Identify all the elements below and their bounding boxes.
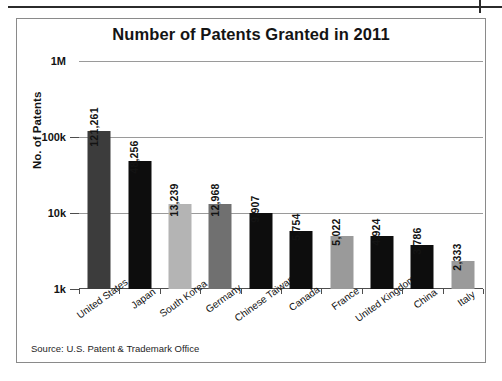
page-edge-tick — [479, 0, 481, 13]
bar[interactable]: 5,754 — [290, 231, 313, 289]
y-axis-tick — [70, 137, 79, 138]
y-axis-tick-label: 100k — [42, 131, 66, 143]
bar[interactable]: 2,333 — [451, 261, 474, 289]
bar[interactable]: 13,239 — [168, 204, 191, 289]
y-axis-tick-label: 1k — [54, 283, 66, 295]
bar-value-label: 9,907 — [249, 196, 261, 223]
plot-area: 1M100k10k1k 121,261United States48,256Ja… — [79, 61, 483, 289]
bar-group[interactable]: 48,256Japan — [119, 61, 159, 289]
x-axis-tick — [281, 289, 282, 294]
x-axis-tick — [362, 289, 363, 294]
bar-value-label: 48,256 — [128, 140, 140, 173]
x-axis-tick — [483, 289, 484, 294]
bar[interactable]: 4,924 — [370, 236, 393, 289]
bar-series: 121,261United States48,256Japan13,239Sou… — [79, 61, 483, 289]
bar-group[interactable]: 12,968Germany — [200, 61, 240, 289]
x-axis-tick — [321, 289, 322, 294]
y-axis-tick-label: 10k — [48, 207, 66, 219]
bar-group[interactable]: 3,786China — [402, 61, 442, 289]
bar[interactable]: 48,256 — [128, 161, 151, 289]
bar-value-label: 5,022 — [330, 218, 342, 245]
bar-value-label: 4,924 — [370, 219, 382, 246]
bar-group[interactable]: 9,907Chinese Taiwan — [241, 61, 281, 289]
bar-value-label: 3,786 — [410, 227, 422, 254]
y-axis-tick — [70, 213, 79, 214]
bar-group[interactable]: 2,333Italy — [443, 61, 483, 289]
bar-group[interactable]: 13,239South Korea — [160, 61, 200, 289]
x-axis-tick — [200, 289, 201, 294]
chart-title: Number of Patents Granted in 2011 — [17, 25, 485, 44]
bar-value-label: 12,968 — [208, 184, 220, 217]
page-edge-rule — [8, 6, 502, 8]
bar-value-label: 121,261 — [87, 107, 99, 146]
bar[interactable]: 12,968 — [209, 204, 232, 289]
y-axis-tick — [70, 289, 79, 290]
bar[interactable]: 121,261 — [88, 131, 111, 289]
x-axis-category-label: Japan — [129, 286, 158, 311]
x-axis-tick — [402, 289, 403, 294]
bar-group[interactable]: 5,754Canada — [281, 61, 321, 289]
x-axis-tick — [241, 289, 242, 294]
x-axis-tick — [79, 289, 80, 294]
bar-value-label: 13,239 — [168, 183, 180, 216]
y-axis-tick-label: 1M — [51, 55, 66, 67]
bar-group[interactable]: 5,022France — [321, 61, 361, 289]
bar[interactable]: 9,907 — [249, 213, 272, 289]
bar-group[interactable]: 121,261United States — [79, 61, 119, 289]
x-axis-tick — [443, 289, 444, 294]
source-note: Source: U.S. Patent & Trademark Office — [31, 343, 199, 354]
bar-value-label: 2,333 — [451, 243, 463, 270]
bar[interactable]: 5,022 — [330, 236, 353, 289]
x-axis-tick — [119, 289, 120, 294]
bar-group[interactable]: 4,924United Kingdom — [362, 61, 402, 289]
x-axis-category-label: China — [412, 286, 440, 310]
x-axis-category-label: Italy — [455, 289, 476, 309]
chart-figure: Number of Patents Granted in 2011 No. of… — [16, 18, 486, 363]
x-axis-tick — [160, 289, 161, 294]
bar-value-label: 5,754 — [289, 214, 301, 241]
bar[interactable]: 3,786 — [411, 245, 434, 289]
